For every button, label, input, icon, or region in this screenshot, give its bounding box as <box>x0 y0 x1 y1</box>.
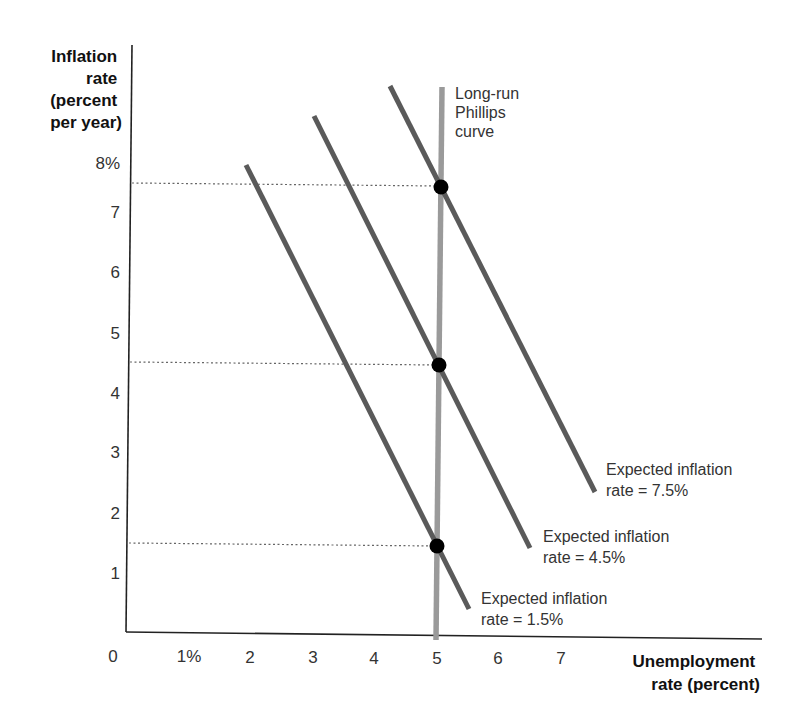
x-tick: 4 <box>369 649 378 668</box>
y-axis-title-line-4: per year) <box>50 113 122 132</box>
y-axis-title: Inflation rate (percent per year) <box>50 47 122 132</box>
x-tick: 3 <box>308 648 317 667</box>
y-axis-title-line-3: (percent <box>50 91 117 110</box>
srpc-7-5 <box>390 86 595 492</box>
srpc-1-5-label: Expected inflation rate = 1.5% <box>481 590 612 628</box>
x-tick: 6 <box>493 649 502 668</box>
srpc-7-5-label: Expected inflation rate = 7.5% <box>606 461 737 499</box>
y-tick: 7 <box>111 203 120 222</box>
y-tick: 4 <box>111 384 120 403</box>
point-7-5 <box>434 180 449 195</box>
reference-line-1-5 <box>129 543 436 546</box>
y-tick: 8% <box>95 154 120 173</box>
y-tick: 2 <box>111 504 120 523</box>
lrpc-label-line-2: Phillips <box>455 104 506 121</box>
reference-line-7-5 <box>132 183 440 186</box>
x-tick: 5 <box>432 649 441 668</box>
point-4-5 <box>432 358 447 373</box>
lrpc-label-line-1: Long-run <box>455 85 519 102</box>
y-axis <box>126 45 132 632</box>
reference-line-4-5 <box>130 362 438 365</box>
y-axis-title-line-2: rate <box>86 69 117 88</box>
x-tick: 7 <box>556 649 565 668</box>
y-tick: 6 <box>111 263 120 282</box>
srpc-4-5 <box>314 116 530 548</box>
srpc-4-5-label-line-2: rate = 4.5% <box>543 549 625 566</box>
y-tick: 3 <box>111 443 120 462</box>
x-tick: 1% <box>177 647 202 666</box>
srpc-4-5-label: Expected inflation rate = 4.5% <box>543 528 674 566</box>
y-axis-title-line-1: Inflation <box>51 47 117 66</box>
y-axis-ticks: 1 2 3 4 5 6 7 8% <box>95 154 120 583</box>
srpc-7-5-label-line-2: rate = 7.5% <box>606 482 688 499</box>
lrpc-label: Long-run Phillips curve <box>455 85 524 140</box>
phillips-curve-chart: Inflation rate (percent per year) 1 2 3 … <box>0 0 801 712</box>
y-tick: 1 <box>111 564 120 583</box>
x-axis-title-line-1: Unemployment <box>632 652 755 671</box>
x-axis-ticks: 0 1% 2 3 4 5 6 7 <box>108 647 565 668</box>
srpc-1-5-label-line-1: Expected inflation <box>481 590 607 607</box>
x-tick: 0 <box>108 647 117 666</box>
srpc-7-5-label-line-1: Expected inflation <box>606 461 732 478</box>
srpc-4-5-label-line-1: Expected inflation <box>543 528 669 545</box>
x-axis-title-line-2: rate (percent) <box>651 675 760 694</box>
point-1-5 <box>430 539 445 554</box>
x-axis-title: Unemployment rate (percent) <box>632 652 760 694</box>
srpc-1-5-label-line-2: rate = 1.5% <box>481 611 563 628</box>
x-axis <box>126 632 762 639</box>
x-tick: 2 <box>245 648 254 667</box>
y-tick: 5 <box>111 324 120 343</box>
lrpc-label-line-3: curve <box>455 123 494 140</box>
